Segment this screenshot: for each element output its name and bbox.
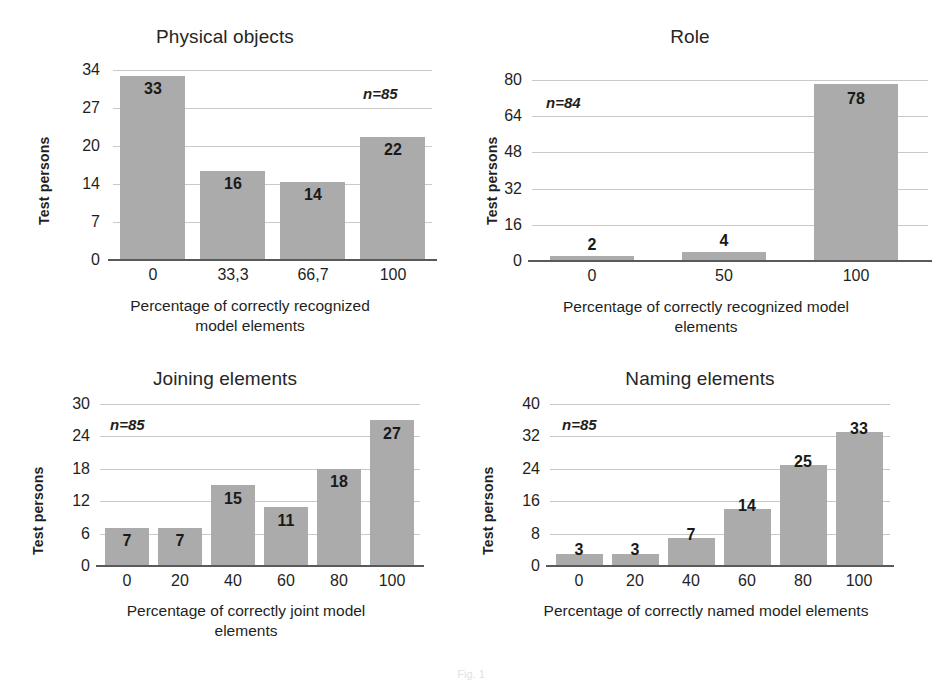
bar[interactable]	[836, 432, 883, 566]
bar-group	[100, 404, 420, 566]
figure-root: Physical objects Test persons 34 27 20 1…	[0, 0, 942, 682]
bar-value-label: 2	[588, 236, 597, 254]
bar-value-label: 3	[575, 541, 584, 559]
sample-size-note: n=85	[562, 416, 597, 433]
x-tick: 0	[149, 266, 158, 284]
sample-size-note: n=85	[363, 85, 398, 102]
y-tick: 14	[0, 175, 100, 193]
x-axis-label-line: model elements	[60, 316, 440, 336]
bar-value-label: 33	[850, 420, 868, 438]
y-tick: 34	[0, 61, 100, 79]
bar-group	[550, 404, 890, 566]
figure-caption: Fig. 1	[0, 668, 942, 680]
x-tick: 33,3	[217, 266, 248, 284]
bar-value-label: 7	[176, 532, 185, 550]
x-tick: 100	[846, 572, 873, 590]
x-tick: 0	[588, 267, 597, 285]
x-axis-label-line: Percentage of correctly joint model	[46, 601, 446, 621]
y-tick: 30	[0, 395, 90, 413]
bar-group	[532, 80, 928, 261]
y-tick: 12	[0, 492, 90, 510]
y-tick: 0	[0, 557, 90, 575]
bar-value-label: 22	[384, 141, 402, 159]
y-tick: 80	[470, 71, 522, 89]
bar-value-label: 25	[794, 453, 812, 471]
x-tick: 100	[379, 572, 406, 590]
x-axis-line	[528, 260, 932, 262]
x-tick: 80	[794, 572, 812, 590]
bar-value-label: 14	[304, 186, 322, 204]
y-tick: 24	[470, 460, 540, 478]
y-tick: 16	[470, 216, 522, 234]
x-axis-label-line: Percentage of correctly named model elem…	[476, 601, 936, 621]
panel-naming-elements: Naming elements Test persons 40 32 24 16…	[470, 340, 942, 682]
bar-value-label: 18	[330, 473, 348, 491]
x-tick: 100	[380, 266, 407, 284]
y-tick: 32	[470, 427, 540, 445]
x-axis-label-line: elements	[486, 317, 926, 337]
x-axis-label-line: Percentage of correctly recognized model	[486, 297, 926, 317]
x-tick: 60	[738, 572, 756, 590]
bar[interactable]	[814, 84, 898, 261]
bar-value-label: 78	[847, 90, 865, 108]
panel-title: Role	[470, 26, 910, 48]
y-tick: 40	[470, 395, 540, 413]
x-axis-line	[546, 565, 894, 567]
x-tick: 40	[224, 572, 242, 590]
x-axis-label: Percentage of correctly named model elem…	[476, 601, 936, 621]
y-tick: 0	[470, 557, 540, 575]
x-axis-line	[108, 259, 437, 261]
y-tick: 32	[470, 180, 522, 198]
bar-value-label: 15	[224, 490, 242, 508]
y-tick: 0	[0, 251, 100, 269]
panel-title: Naming elements	[470, 368, 930, 390]
sample-size-note: n=84	[546, 94, 581, 111]
panel-role: Role Test persons 80 64 48 32 16 0 2 4 7…	[470, 0, 942, 340]
bar-value-label: 4	[720, 232, 729, 250]
bar[interactable]	[724, 509, 771, 566]
x-axis-label-line: elements	[46, 621, 446, 641]
x-tick: 100	[843, 267, 870, 285]
y-tick: 18	[0, 460, 90, 478]
y-tick: 8	[470, 525, 540, 543]
x-axis-label: Percentage of correctly joint model elem…	[46, 601, 446, 642]
y-tick: 16	[470, 492, 540, 510]
bar-value-label: 16	[224, 175, 242, 193]
x-axis-label: Percentage of correctly recognized model…	[60, 296, 440, 337]
x-axis-label: Percentage of correctly recognized model…	[486, 297, 926, 338]
bar-value-label: 27	[383, 425, 401, 443]
sample-size-note: n=85	[110, 416, 145, 433]
x-axis-label-line: Percentage of correctly recognized	[60, 296, 440, 316]
y-tick: 64	[470, 107, 522, 125]
x-tick: 20	[171, 572, 189, 590]
panel-physical-objects: Physical objects Test persons 34 27 20 1…	[0, 0, 470, 340]
y-tick: 6	[0, 525, 90, 543]
bar-value-label: 7	[123, 532, 132, 550]
y-tick: 48	[470, 143, 522, 161]
x-tick: 60	[277, 572, 295, 590]
y-tick: 7	[0, 213, 100, 231]
bar-value-label: 3	[631, 541, 640, 559]
bar-value-label: 14	[738, 497, 756, 515]
bar-value-label: 11	[278, 512, 295, 530]
x-axis-line	[96, 565, 424, 567]
y-tick: 24	[0, 427, 90, 445]
x-tick: 66,7	[297, 266, 328, 284]
panel-title: Joining elements	[0, 368, 450, 390]
x-tick: 40	[682, 572, 700, 590]
bar-value-label: 33	[144, 80, 162, 98]
bar[interactable]	[120, 76, 185, 260]
x-tick: 50	[715, 267, 733, 285]
y-tick: 27	[0, 99, 100, 117]
y-tick: 20	[0, 137, 100, 155]
x-tick: 20	[626, 572, 644, 590]
panel-title: Physical objects	[0, 26, 450, 48]
x-tick: 0	[123, 572, 132, 590]
x-tick: 80	[330, 572, 348, 590]
bar-value-label: 7	[687, 526, 696, 544]
y-tick: 0	[470, 252, 522, 270]
x-tick: 0	[575, 572, 584, 590]
bar[interactable]	[780, 465, 827, 566]
panel-joining-elements: Joining elements Test persons 30 24 18 1…	[0, 340, 470, 682]
